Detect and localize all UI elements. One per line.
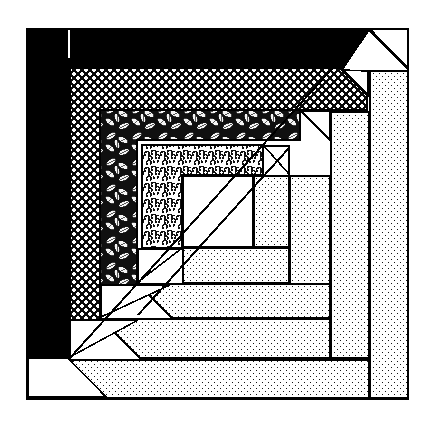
patch-light-dot-edge-bottom (69, 360, 369, 398)
patch-light-dot-inner-bottom (183, 248, 289, 283)
patch-light-dot-outer-bottom (101, 319, 330, 358)
patch-center-white-square (183, 176, 253, 247)
patch-light-dot-outer-right (331, 112, 369, 358)
seam-registration-tick (68, 30, 70, 58)
patch-light-dot-inner-right (254, 176, 289, 247)
patch-light-dot-mid-bottom (138, 284, 330, 318)
patch-light-dot-edge-right (370, 70, 408, 398)
quilt-block-diagram: Log Cabin Quilt Block Piecing Diagram (0, 0, 431, 426)
